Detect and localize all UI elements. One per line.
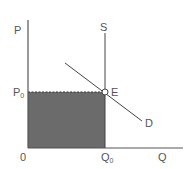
price-p0-label: P0 bbox=[13, 86, 24, 99]
supply-label: S bbox=[100, 21, 107, 33]
equilibrium-point bbox=[102, 89, 108, 95]
y-axis-label: P bbox=[14, 24, 21, 36]
x-axis-label: Q bbox=[158, 151, 167, 163]
demand-label: D bbox=[145, 117, 153, 129]
shaded-area bbox=[28, 92, 105, 148]
quantity-q0-label: Q0 bbox=[101, 151, 114, 164]
origin-label: 0 bbox=[20, 151, 26, 163]
equilibrium-label: E bbox=[111, 86, 118, 98]
supply-demand-diagram: P S P0 E D 0 Q0 Q bbox=[0, 0, 190, 169]
